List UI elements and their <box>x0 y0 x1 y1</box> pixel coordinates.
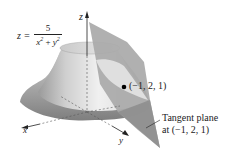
tangent-point <box>122 85 127 90</box>
equation-denominator: x2 + y2 <box>34 34 62 47</box>
surface-equation: z = 5 x2 + y2 <box>17 24 62 47</box>
tangent-plane-label: Tangent plane at (−1, 2, 1) <box>162 112 218 136</box>
equation-fraction: 5 x2 + y2 <box>34 24 62 47</box>
equation-lhs: z = <box>17 31 30 41</box>
den-plus: + <box>43 37 53 47</box>
z-axis-arrow-icon <box>85 11 89 18</box>
tangent-plane-label-line2: at (−1, 2, 1) <box>162 124 218 136</box>
point-label: (−1, 2, 1) <box>129 81 166 91</box>
z-axis-label: z <box>79 12 83 22</box>
tangent-plane-label-line1: Tangent plane <box>162 112 218 124</box>
x-axis <box>27 124 40 127</box>
equation-numerator: 5 <box>44 24 53 34</box>
y-axis-label: y <box>119 136 123 145</box>
den-y-exp: 2 <box>57 36 60 42</box>
x-axis-label: x <box>23 126 27 135</box>
y-axis <box>112 126 124 133</box>
y-axis-arrow-icon <box>122 130 129 136</box>
